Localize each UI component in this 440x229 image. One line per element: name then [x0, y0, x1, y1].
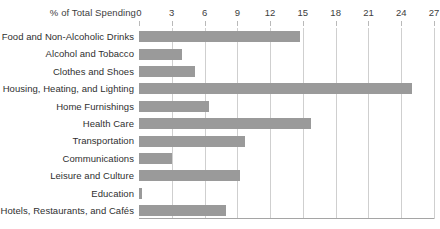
bar-row: Food and Non-Alcoholic Drinks [0, 28, 440, 45]
bar-chart: % of Total Spending 0369121518212427 Foo… [0, 0, 440, 229]
category-label: Clothes and Shoes [0, 63, 134, 80]
bar [139, 66, 195, 77]
category-label: Transportation [0, 132, 134, 149]
bar [139, 101, 209, 112]
bar [139, 136, 245, 147]
bar-row: Home Furnishings [0, 98, 440, 115]
x-tick-mark [237, 21, 238, 26]
category-label: Housing, Heating, and Lighting [0, 80, 134, 97]
bar [139, 31, 300, 42]
x-tick-label: 6 [202, 7, 207, 19]
bar [139, 83, 412, 94]
bar-row: Leisure and Culture [0, 167, 440, 184]
x-tick-mark [401, 21, 402, 26]
bar [139, 205, 226, 216]
x-axis-tick-labels: 0369121518212427 [0, 7, 440, 19]
x-tick-label: 9 [235, 7, 240, 19]
x-tick-mark [368, 21, 369, 26]
bar-row: Housing, Heating, and Lighting [0, 80, 440, 97]
bar-row: Health Care [0, 115, 440, 132]
x-tick-label: 12 [265, 7, 276, 19]
x-tick-label: 24 [396, 7, 407, 19]
x-tick-mark [270, 21, 271, 26]
bar [139, 118, 311, 129]
bar [139, 188, 142, 199]
x-tick-label: 3 [169, 7, 174, 19]
x-tick-label: 21 [363, 7, 374, 19]
x-tick-mark [303, 21, 304, 26]
x-tick-label: 18 [330, 7, 341, 19]
category-label: Communications [0, 150, 134, 167]
category-label: Hotels, Restaurants, and Cafés [0, 202, 134, 219]
category-label: Leisure and Culture [0, 167, 134, 184]
x-tick-mark [205, 21, 206, 26]
bar [139, 49, 182, 60]
x-axis-tick-marks [0, 21, 440, 26]
bar [139, 170, 240, 181]
x-tick-mark [139, 21, 140, 26]
x-tick-mark [434, 21, 435, 26]
category-label: Home Furnishings [0, 98, 134, 115]
x-tick-label: 0 [136, 7, 141, 19]
category-label: Food and Non-Alcoholic Drinks [0, 28, 134, 45]
category-label: Alcohol and Tobacco [0, 45, 134, 62]
bar-row: Communications [0, 150, 440, 167]
bar-row: Clothes and Shoes [0, 63, 440, 80]
x-tick-label: 15 [298, 7, 309, 19]
bar-row: Hotels, Restaurants, and Cafés [0, 202, 440, 219]
x-tick-mark [172, 21, 173, 26]
bar [139, 153, 172, 164]
bar-row: Alcohol and Tobacco [0, 45, 440, 62]
category-label: Health Care [0, 115, 134, 132]
bar-rows: Food and Non-Alcoholic DrinksAlcohol and… [0, 28, 440, 219]
bar-row: Education [0, 185, 440, 202]
category-label: Education [0, 185, 134, 202]
bar-row: Transportation [0, 132, 440, 149]
x-tick-mark [336, 21, 337, 26]
x-tick-label: 27 [429, 7, 440, 19]
